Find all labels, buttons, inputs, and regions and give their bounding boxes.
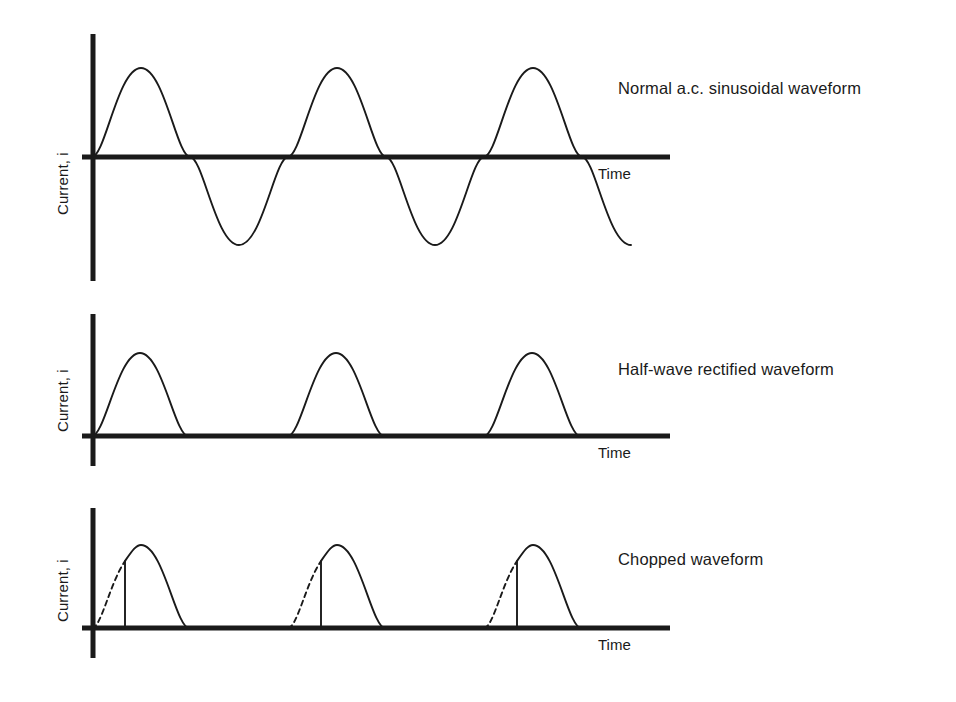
waveform-figure: Current, i Time Normal a.c. sinusoidal w… bbox=[0, 0, 956, 702]
chopped-dashed-segment-2 bbox=[288, 561, 321, 628]
panel-3-plot bbox=[0, 0, 956, 702]
chopped-dashed-segment-1 bbox=[92, 561, 125, 628]
chopped-dashed-segment-3 bbox=[484, 561, 517, 628]
caption-chopped: Chopped waveform bbox=[618, 550, 763, 569]
chopped-solid-segment-1 bbox=[125, 545, 189, 628]
x-axis-label-panel-3: Time bbox=[598, 636, 631, 653]
chopped-solid-segment-2 bbox=[321, 545, 385, 628]
chopped-solid-segment-3 bbox=[517, 545, 581, 628]
